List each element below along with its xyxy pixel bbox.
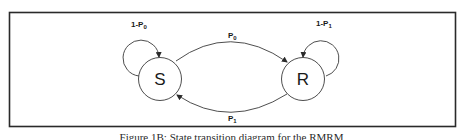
node-s: S (139, 58, 182, 101)
transition-r-to-s-arrow (177, 94, 287, 112)
node-r: R (282, 58, 325, 101)
label-r-self-loop-sub: 1 (328, 23, 332, 29)
label-s-self-loop: 1-P0 (131, 20, 147, 30)
label-s-self-loop-sub: 0 (143, 24, 147, 30)
label-r-to-s: P1 (228, 114, 237, 124)
node-r-label: R (297, 70, 309, 89)
figure-caption: Figure 1B: State transition diagram for … (0, 131, 463, 140)
label-r-to-s-sub: 1 (233, 118, 237, 124)
node-s-label: S (154, 70, 165, 89)
label-r-self-loop-main: 1-P (316, 19, 329, 28)
label-s-to-r-sub: 0 (233, 35, 237, 41)
transition-s-to-r-arrow (176, 42, 287, 62)
label-s-self-loop-main: 1-P (131, 20, 144, 29)
state-transition-diagram: S R 1-P0 P0 1-P1 P1 (0, 0, 463, 140)
diagram-frame (10, 13, 456, 127)
label-r-self-loop: 1-P1 (316, 19, 332, 29)
label-s-to-r: P0 (228, 31, 237, 41)
